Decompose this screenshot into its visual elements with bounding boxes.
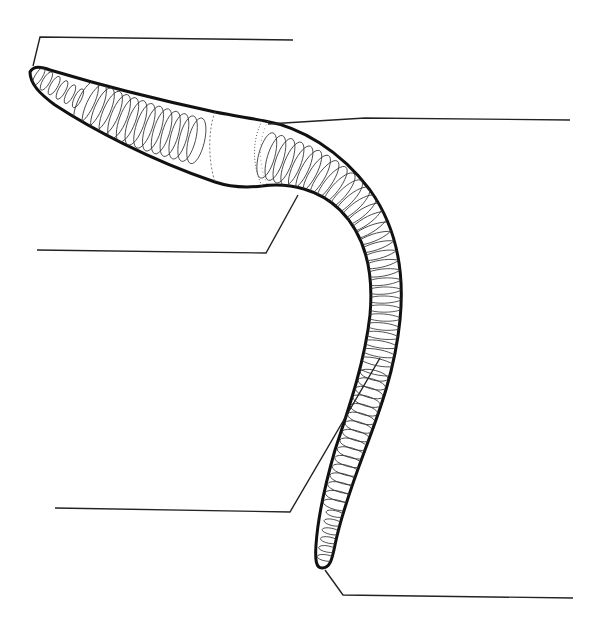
- leader-line-clitellum: [268, 118, 570, 124]
- leader-line-posterior-end: [325, 570, 573, 598]
- leader-line-anterior-end: [33, 37, 293, 66]
- earthworm-diagram: [0, 0, 604, 637]
- leader-line-setae: [37, 195, 298, 253]
